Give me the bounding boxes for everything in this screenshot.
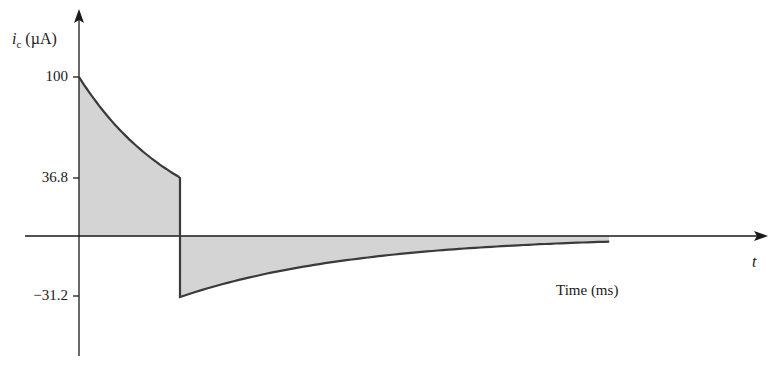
y-axis-unit: (µA) — [21, 30, 56, 47]
y-tick-label-100: 100 — [18, 68, 68, 85]
y-tick-label-neg-31-2: −31.2 — [18, 287, 68, 304]
x-axis-symbol: t — [752, 253, 756, 271]
y-tick-label-36-8: 36.8 — [18, 169, 68, 186]
chart-plot — [0, 0, 781, 377]
negative-area-fill — [180, 236, 609, 297]
y-axis-label: ic (µA) — [12, 30, 57, 50]
x-axis-title: Time (ms) — [556, 282, 618, 299]
